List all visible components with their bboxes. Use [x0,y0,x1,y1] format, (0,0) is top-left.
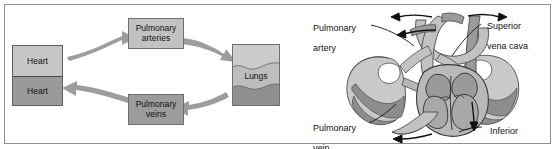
lungs-label: Lungs [233,71,279,81]
heart-organ [417,65,489,137]
leader-pulmonary-artery [371,25,414,46]
label-pulmonary-vein: Pulmonary vein [313,113,356,149]
label-pulmonary-artery-line2: artery [313,43,356,53]
label-pulmonary-artery: Pulmonary artery [313,13,356,63]
label-pulmonary-vein-line2: vein [313,143,356,149]
figure-container: Heart Heart Pulmonary arteries Pulmonary… [0,0,556,149]
label-superior-vena-cava-line1: Superior [487,21,528,31]
flow-arrow-inferior-left [393,134,432,143]
label-pulmonary-artery-line1: Pulmonary [313,23,356,33]
label-inferior-vena-cava-line2: vena cava [490,146,531,149]
label-superior-vena-cava-line2: vena cava [487,41,528,51]
label-inferior-vena-cava: Inferior vena cava [490,116,531,149]
label-inferior-vena-cava-line1: Inferior [490,126,531,136]
label-superior-vena-cava: Superior vena cava [487,11,528,61]
label-pulmonary-vein-line1: Pulmonary [313,123,356,133]
